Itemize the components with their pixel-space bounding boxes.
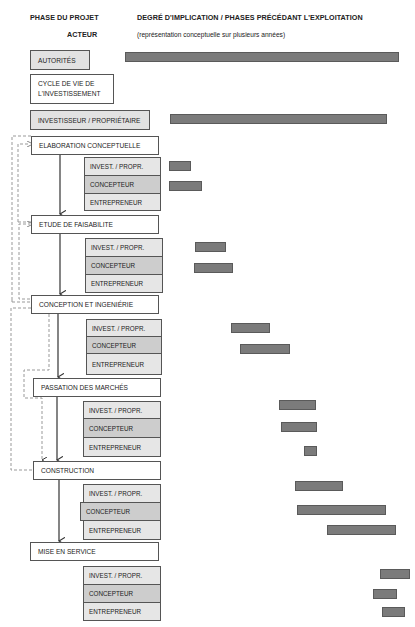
bar-ef-concepteur bbox=[194, 263, 233, 273]
actor-entrepreneur: ENTREPRENEUR bbox=[83, 602, 161, 621]
actor-concepteur: CONCEPTEUR bbox=[83, 418, 161, 438]
actor-invest: INVEST. / PROPR. bbox=[84, 157, 161, 176]
actor-concepteur: CONCEPTEUR bbox=[83, 584, 161, 603]
phase-passation-marches: PASSATION DES MARCHÉS bbox=[33, 378, 161, 397]
cycle-line1: CYCLE DE VIE DE bbox=[38, 79, 94, 89]
actor-invest: INVEST. / PROPR. bbox=[83, 566, 161, 585]
actors-group-5: INVEST. / PROPR. CONCEPTEUR ENTREPRENEUR bbox=[80, 484, 161, 540]
actors-group-6: INVEST. / PROPR. CONCEPTEUR ENTREPRENEUR bbox=[83, 566, 161, 621]
actor-invest: INVEST. / PROPR. bbox=[86, 319, 162, 337]
phase-conception-ingenierie: CONCEPTION ET INGENIÉRIE bbox=[31, 295, 159, 314]
actor-entrepreneur: ENTREPRENEUR bbox=[84, 193, 161, 211]
bar-autorites bbox=[125, 52, 399, 62]
cycle-line2: L'INVESTISSEMENT bbox=[38, 89, 100, 99]
bar-pm-invest bbox=[279, 400, 316, 410]
actor-entrepreneur: ENTREPRENEUR bbox=[83, 520, 161, 540]
bar-ec-concepteur bbox=[169, 181, 202, 191]
actor-concepteur: CONCEPTEUR bbox=[86, 336, 162, 354]
actor-entrepreneur: ENTREPRENEUR bbox=[83, 437, 161, 457]
actor-entrepreneur: ENTREPRENEUR bbox=[86, 353, 162, 375]
bar-pm-entrepreneur bbox=[304, 446, 317, 456]
actors-group-4: INVEST. / PROPR. CONCEPTEUR ENTREPRENEUR bbox=[83, 401, 161, 457]
bar-con-concepteur bbox=[297, 505, 386, 515]
phase-mise-en-service: MISE EN SERVICE bbox=[30, 542, 159, 561]
actor-concepteur: CONCEPTEUR bbox=[80, 502, 161, 521]
actor-invest: INVEST. / PROPR. bbox=[83, 401, 161, 419]
phase-construction: CONSTRUCTION bbox=[33, 461, 161, 480]
bar-ci-concepteur bbox=[240, 344, 290, 354]
bar-mes-invest bbox=[380, 569, 410, 579]
actor-invest: INVEST. / PROPR. bbox=[83, 484, 161, 503]
bar-ef-invest bbox=[195, 242, 226, 252]
actor-entrepreneur: ENTREPRENEUR bbox=[85, 274, 163, 293]
actors-group-2: INVEST. / PROPR. CONCEPTEUR ENTREPRENEUR bbox=[85, 238, 163, 293]
actor-autorites: AUTORITÉS bbox=[30, 50, 90, 70]
actors-group-3: INVEST. / PROPR. CONCEPTEUR ENTREPRENEUR bbox=[86, 319, 162, 375]
bar-investisseur bbox=[170, 114, 387, 124]
phase-etude-faisabilite: ETUDE DE FAISABILITE bbox=[31, 215, 159, 234]
bar-con-invest bbox=[295, 481, 343, 491]
bar-ec-invest bbox=[169, 161, 191, 171]
actor-concepteur: CONCEPTEUR bbox=[85, 256, 163, 275]
investment-lifecycle-box: CYCLE DE VIE DE L'INVESTISSEMENT bbox=[30, 74, 114, 104]
actors-group-1: INVEST. / PROPR. CONCEPTEUR ENTREPRENEUR bbox=[84, 157, 161, 211]
bar-ci-invest bbox=[231, 323, 270, 333]
bar-pm-concepteur bbox=[281, 422, 317, 432]
bar-mes-entrepreneur bbox=[382, 607, 405, 617]
actor-invest: INVEST. / PROPR. bbox=[85, 238, 163, 257]
phase-elaboration-conceptuelle: ELABORATION CONCEPTUELLE bbox=[31, 136, 159, 155]
bar-mes-concepteur bbox=[373, 589, 397, 599]
actor-concepteur: CONCEPTEUR bbox=[84, 175, 161, 194]
actor-investisseur: INVESTISSEUR / PROPRIÉTAIRE bbox=[30, 110, 150, 130]
bar-con-entrepreneur bbox=[327, 525, 396, 535]
